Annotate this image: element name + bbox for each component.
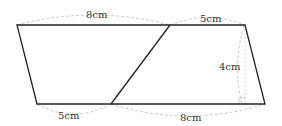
label-top-left: 8cm <box>86 9 108 20</box>
label-top-right: 5cm <box>200 13 222 24</box>
label-bottom-right: 8cm <box>180 112 202 123</box>
parallelogram-diagram: 8cm 5cm 4cm 5cm 8cm <box>0 0 282 126</box>
right-angle-mark <box>239 98 245 104</box>
label-height: 4cm <box>219 61 241 72</box>
cut-line <box>111 25 170 104</box>
label-bottom-left: 5cm <box>58 110 80 121</box>
